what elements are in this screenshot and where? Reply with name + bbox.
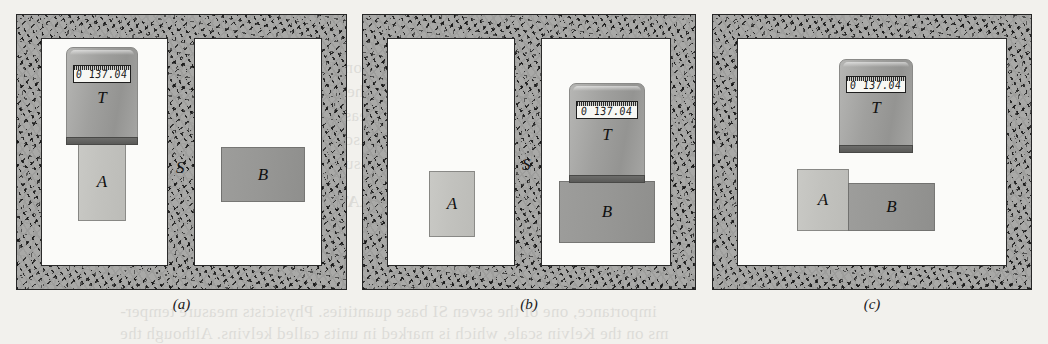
caption-c: (c): [712, 296, 1032, 313]
thermometer-t[interactable]: 0 137.04 T: [839, 59, 913, 153]
body-b[interactable]: B: [848, 183, 935, 231]
thermometer-body: 0 137.04 T: [66, 47, 138, 138]
thermometer-highlight: [573, 86, 641, 91]
body-a-label: A: [447, 194, 457, 214]
thermometer-readout: 0 137.04: [850, 79, 903, 91]
thermometer-label: T: [840, 98, 912, 118]
panel-c: 0 137.04 T A B: [712, 14, 1032, 290]
body-b-label: B: [602, 202, 612, 222]
thermometer-display: 0 137.04: [576, 101, 638, 119]
thermometer-label: T: [67, 88, 137, 108]
body-b-label: B: [886, 197, 896, 217]
body-b[interactable]: B: [221, 147, 305, 202]
chamber-left: 0 137.04 T A: [41, 38, 168, 266]
caption-b: (b): [362, 296, 696, 313]
body-a[interactable]: A: [429, 171, 475, 237]
body-b-label: B: [258, 165, 268, 185]
thermometer-highlight: [843, 62, 909, 67]
thermometer-base: [839, 145, 913, 153]
chamber-single: 0 137.04 T A B: [737, 38, 1007, 266]
body-a-label: A: [97, 172, 107, 192]
divider-s-label: S: [176, 158, 185, 178]
thermometer-highlight: [70, 50, 134, 55]
thermometer-base: [569, 175, 645, 183]
thermometer-t[interactable]: 0 137.04 T: [66, 47, 138, 145]
thermometer-t[interactable]: 0 137.04 T: [569, 83, 645, 183]
thermometer-label: T: [570, 125, 644, 145]
thermometer-display: 0 137.04: [846, 76, 906, 93]
caption-a: (a): [16, 296, 347, 313]
body-a[interactable]: A: [797, 169, 849, 231]
thermometer-body: 0 137.04 T: [569, 83, 645, 176]
divider-s-label: S: [522, 155, 531, 175]
thermometer-readout: 0 137.04: [76, 69, 129, 81]
thermometer-base: [66, 137, 138, 145]
body-b[interactable]: B: [559, 181, 655, 243]
thermometer-display: 0 137.04: [73, 65, 132, 83]
chamber-right: B: [194, 38, 322, 266]
panel-b: A S 0 137.04 T B: [362, 14, 696, 290]
panel-a: 0 137.04 T A S B: [16, 14, 347, 290]
thermometer-body: 0 137.04 T: [839, 59, 913, 146]
body-a-label: A: [818, 190, 828, 210]
body-a[interactable]: A: [78, 143, 126, 221]
thermometer-readout: 0 137.04: [581, 105, 634, 117]
chamber-right: 0 137.04 T B: [541, 38, 671, 266]
chamber-left: A: [387, 38, 515, 266]
